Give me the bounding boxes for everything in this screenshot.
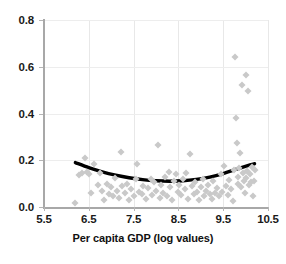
gridline-vertical [268,20,269,207]
x-axis-tick [44,207,45,211]
x-axis-tick [178,207,179,211]
x-axis-tick-label: 7.5 [114,213,154,225]
y-axis-tick-label: 0.0 [0,201,34,213]
gridline-horizontal [44,20,268,21]
y-axis-tick-label: 0.8 [0,14,34,26]
y-axis-tick [39,114,43,115]
y-axis-tick-label: 0.6 [0,61,34,73]
plot-area [44,20,268,207]
x-axis-title: Per capita GDP (log values) [0,232,286,244]
y-axis-tick [39,207,43,208]
x-axis-tick [134,207,135,211]
x-axis-tick-label: 5.5 [24,213,64,225]
y-axis-line [43,19,45,208]
y-axis-tick-label: 0.4 [0,108,34,120]
y-axis-tick [39,160,43,161]
x-axis-tick-label: 6.5 [69,213,109,225]
x-axis-tick [268,207,269,211]
x-axis-tick [223,207,224,211]
x-axis-line [43,207,269,209]
y-axis-tick [39,20,43,21]
gridline-horizontal [44,160,268,161]
y-axis-tick [39,67,43,68]
gridline-horizontal [44,67,268,68]
x-axis-tick-label: 9.5 [203,213,243,225]
x-axis-tick-label: 10.5 [248,213,286,225]
scatter-chart-figure: Per capita GDP (log values) 5.56.57.58.5… [0,0,286,264]
x-axis-tick-label: 8.5 [158,213,198,225]
y-axis-tick-label: 0.2 [0,154,34,166]
x-axis-tick [89,207,90,211]
